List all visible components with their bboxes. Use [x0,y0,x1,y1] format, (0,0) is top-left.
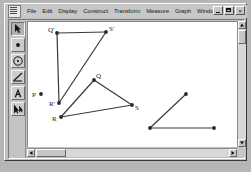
sketchpad-window: File Edit Display Construct Transform Me… [4,3,247,161]
point-Sp[interactable] [104,30,108,34]
menu-item-construct[interactable]: Construct [80,6,111,17]
scroll-up-button[interactable] [238,21,246,29]
menu-bar: File Edit Display Construct Transform Me… [6,5,247,18]
custom-tool-icon [12,103,24,115]
segment-Qp-Rp[interactable] [57,33,59,103]
scroll-left-arrow-icon [30,151,33,155]
point-R[interactable] [59,115,63,119]
scroll-right-button[interactable] [229,149,237,157]
point-label-Sp[interactable]: S' [109,26,114,33]
point-label-Rp[interactable]: R' [49,101,55,108]
segment-layer [57,32,214,128]
close-button[interactable]: × [235,6,245,15]
application-root: File Edit Display Construct Transform Me… [0,0,251,172]
compass-tool[interactable] [11,54,25,68]
menu-item-graph[interactable]: Graph [172,6,194,17]
point-A[interactable] [184,92,188,96]
segment-Q-S[interactable] [94,80,132,105]
scroll-right-arrow-icon [232,151,235,155]
geometry-figure [28,22,237,147]
point-B[interactable] [148,126,152,130]
menu-item-display[interactable]: Display [55,6,80,17]
point-label-Q[interactable]: Q [96,73,101,80]
point-icon [12,39,24,51]
restore-button[interactable] [224,6,234,15]
sketch-canvas[interactable]: Q'S'R'PQSR [27,21,237,147]
point-label-R[interactable]: R [52,116,57,123]
scroll-down-arrow-icon [240,142,244,145]
vertical-scrollbar[interactable] [237,21,246,147]
window-controls: × [213,6,245,15]
scrollbar-corner [237,148,246,157]
segment-A-B[interactable] [150,94,186,128]
segment-Q-R[interactable] [61,80,94,117]
menu-item-measure[interactable]: Measure [143,6,172,17]
point-tool[interactable] [11,38,25,52]
segment-R-S[interactable] [61,105,132,117]
letter-a-icon [12,87,24,99]
scroll-down-button[interactable] [238,139,246,147]
selection-arrow-tool[interactable] [11,22,25,36]
point-Rp[interactable] [57,101,61,105]
custom-tool[interactable] [11,102,25,116]
segment-Qp-Sp[interactable] [57,32,106,33]
arrow-icon [12,23,24,35]
sketch-document-frame: Q'S'R'PQSR [8,19,245,159]
line-icon [12,71,24,83]
close-icon: × [237,8,243,14]
menu-item-edit[interactable]: Edit [39,6,55,17]
document-icon[interactable] [8,5,21,18]
menu-item-transform[interactable]: Transform [111,6,143,17]
point-label-P[interactable]: P [32,92,36,99]
tool-palette [10,21,26,158]
straightedge-tool[interactable] [11,70,25,84]
scroll-up-arrow-icon [240,24,244,27]
circle-icon [12,55,24,67]
point-layer [39,30,216,130]
point-P[interactable] [39,92,43,96]
menu-item-file[interactable]: File [24,6,39,17]
text-tool[interactable] [11,86,25,100]
point-S[interactable] [130,103,134,107]
point-label-Qp[interactable]: Q' [48,27,54,34]
horizontal-scrollbar[interactable] [27,148,237,157]
point-Qp[interactable] [55,31,59,35]
horizontal-scroll-thumb[interactable] [36,149,66,157]
minimize-button[interactable] [213,6,223,15]
vertical-scroll-thumb[interactable] [238,30,246,44]
point-label-S[interactable]: S [135,105,139,112]
scroll-left-button[interactable] [27,149,35,157]
point-C[interactable] [212,126,216,130]
